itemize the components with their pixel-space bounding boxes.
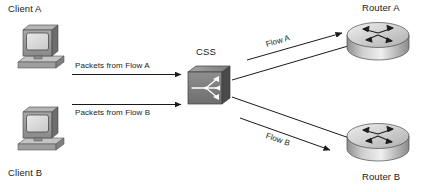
- client-b-label: Client B: [8, 167, 42, 178]
- router-a-label: Router A: [362, 2, 400, 13]
- router-a-icon: [347, 23, 409, 61]
- diagram-canvas: Client A Client B CSS Router A Router B …: [0, 0, 426, 192]
- css-label: CSS: [196, 46, 216, 57]
- router-b-label: Router B: [362, 171, 400, 182]
- line-flow-b-upper: [232, 97, 355, 140]
- client-a-icon: [18, 25, 64, 68]
- client-b-icon: [18, 107, 64, 150]
- client-a-label: Client A: [8, 3, 42, 14]
- css-icon: [188, 66, 230, 104]
- packets-flow-a-label: Packets from Flow A: [75, 61, 150, 70]
- router-b-icon: [347, 124, 409, 162]
- connections-layer: [0, 0, 426, 192]
- packets-flow-b-label: Packets from Flow B: [75, 108, 150, 117]
- arrow-flow-a: [247, 33, 342, 60]
- line-flow-a-lower: [232, 44, 355, 80]
